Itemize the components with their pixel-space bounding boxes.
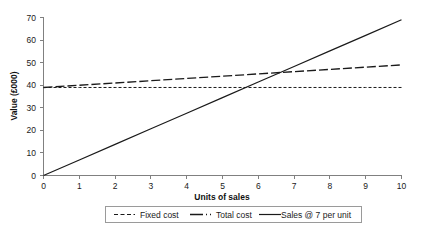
legend-label-total-cost: Total cost [216, 210, 253, 220]
x-tick-label-9: 9 [363, 181, 368, 191]
x-tick-label-1: 1 [77, 181, 82, 191]
y-tick-label-0: 0 [31, 171, 36, 181]
legend-label-fixed-cost: Fixed cost [140, 210, 179, 220]
x-tick-label-0: 0 [41, 181, 46, 191]
y-tick-label-40: 40 [27, 80, 37, 90]
y-tick-label-70: 70 [27, 13, 37, 23]
x-tick-label-5: 5 [220, 181, 225, 191]
y-tick-label-30: 30 [27, 103, 37, 113]
y-tick-label-20: 20 [27, 125, 37, 135]
x-tick-label-10: 10 [397, 181, 407, 191]
legend-label-sales: Sales @ 7 per unit [281, 210, 352, 220]
x-axis-title: Units of sales [194, 192, 250, 202]
x-tick-label-6: 6 [256, 181, 261, 191]
x-tick-label-8: 8 [328, 181, 333, 191]
y-tick-label-10: 10 [27, 148, 37, 158]
x-tick-label-7: 7 [292, 181, 297, 191]
y-tick-label-50: 50 [27, 58, 37, 68]
chart-legend: Fixed cost Total cost Sales @ 7 per unit [106, 207, 362, 223]
x-tick-label-2: 2 [113, 181, 118, 191]
break-even-chart: 70 60 50 40 30 20 10 0 Value (£000) [0, 0, 426, 234]
y-tick-label-60: 60 [27, 35, 37, 45]
y-axis-title: Value (£000) [9, 71, 19, 120]
x-tick-label-4: 4 [184, 181, 189, 191]
chart-svg: 70 60 50 40 30 20 10 0 Value (£000) [0, 0, 426, 234]
x-tick-label-3: 3 [149, 181, 154, 191]
